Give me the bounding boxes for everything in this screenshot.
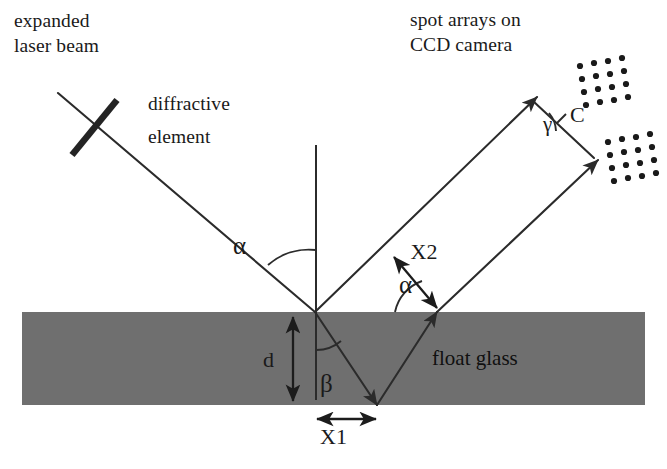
spot-dot	[633, 134, 639, 140]
alpha-exit-label: α	[399, 271, 412, 298]
spot-dot	[579, 76, 585, 82]
spot-dot	[653, 170, 659, 176]
spot-dot	[593, 73, 599, 79]
spot-dot	[651, 157, 657, 163]
spot-dot	[581, 89, 587, 95]
second-surface-beam	[437, 160, 598, 312]
spot-dot	[619, 55, 625, 61]
gamma-label: γ	[542, 112, 552, 136]
element-caption-line1: diffractive	[148, 93, 230, 114]
spot-dot	[637, 160, 643, 166]
detector-caption-line1: spot arrays on	[410, 9, 521, 30]
spot-dot	[611, 178, 617, 184]
alpha-incident-arc	[268, 250, 316, 265]
spot-dot	[625, 175, 631, 181]
spot-array-upper	[577, 55, 631, 108]
spot-dot	[639, 173, 645, 179]
spot-dot	[607, 71, 613, 77]
diagram-canvas: float glass	[0, 0, 667, 469]
detector-caption-line2: CCD camera	[410, 34, 512, 55]
float-glass-label: float glass	[432, 346, 518, 370]
spot-dot	[597, 99, 603, 105]
x2-label: X2	[411, 239, 438, 264]
x1-dimension-group: X1	[317, 419, 376, 449]
spot-dot	[583, 102, 589, 108]
spot-dot	[619, 136, 625, 142]
laser-source-caption: expanded laser beam	[14, 10, 99, 56]
spot-dot	[621, 68, 627, 74]
beta-label: β	[320, 370, 333, 397]
x1-label: X1	[320, 424, 347, 449]
element-caption-line2: element	[148, 126, 211, 147]
spot-dot	[647, 131, 653, 137]
spot-dot	[595, 86, 601, 92]
spot-dot	[649, 144, 655, 150]
diffractive-element-bar	[72, 100, 117, 155]
spot-dot	[623, 81, 629, 87]
float-glass-slab: float glass	[22, 312, 645, 405]
alpha-incident-label: α	[233, 232, 246, 259]
glass-slab-body	[22, 312, 645, 405]
spot-dot	[609, 84, 615, 90]
spot-dot	[605, 58, 611, 64]
c-separation-label: C	[570, 102, 585, 127]
spot-dot	[609, 165, 615, 171]
spot-dot	[635, 147, 641, 153]
gamma-tick-mark	[557, 114, 566, 123]
d-label: d	[263, 347, 274, 372]
optical-diagram-figure: float glass	[0, 0, 667, 469]
ccd-detector-caption: spot arrays on CCD camera	[410, 9, 521, 55]
diffractive-element-caption: diffractive element	[148, 93, 230, 147]
spot-dot	[625, 94, 631, 100]
surface-reflected-beam	[315, 97, 537, 312]
spot-dot	[623, 162, 629, 168]
spot-dot	[591, 60, 597, 66]
spot-dot	[621, 149, 627, 155]
laser-caption-line2: laser beam	[14, 35, 99, 56]
spot-dot	[605, 139, 611, 145]
spot-dot	[607, 152, 613, 158]
spot-array-lower	[605, 131, 659, 184]
spot-dot	[577, 63, 583, 69]
laser-caption-line1: expanded	[14, 10, 90, 31]
spot-dot	[611, 97, 617, 103]
